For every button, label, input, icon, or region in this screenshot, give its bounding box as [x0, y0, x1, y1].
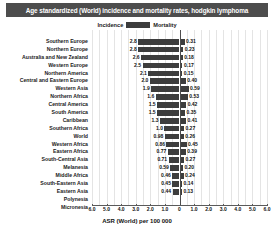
mortality-value-label: 0.20	[184, 164, 194, 172]
axis-tick-mark	[194, 204, 195, 206]
incidence-cell: 2.5	[92, 62, 179, 70]
mortality-value-label: 0.26	[185, 133, 195, 141]
axis-tick-mark	[136, 204, 137, 206]
incidence-cell: 0.71	[92, 156, 179, 164]
chart-row: South-Central Asia0.710.27	[0, 156, 274, 164]
incidence-cell: 2.6	[92, 54, 179, 62]
axis-tick-label: 3.0	[132, 206, 139, 212]
axis-tick-mark	[209, 204, 210, 206]
mortality-cell: 0.23	[180, 46, 267, 54]
mortality-cell: 0.39	[180, 148, 267, 156]
axis-tick-label: 5.0	[103, 206, 110, 212]
incidence-cell: 0.86	[92, 141, 179, 149]
axis-tick-label: 6.0	[89, 206, 96, 212]
mortality-cell: 0.17	[180, 62, 267, 70]
incidence-value-label: 0.59	[159, 164, 169, 172]
incidence-cell: 1.5	[92, 101, 179, 109]
axis-tick-mark	[92, 204, 93, 206]
mortality-cell: 0.53	[180, 93, 267, 101]
row-category-label: Eastern Asia	[0, 188, 88, 196]
incidence-value-label: 1.3	[152, 117, 159, 125]
chart-row: Southern Europe2.80.31	[0, 38, 274, 46]
incidence-value-label: 1.6	[147, 93, 154, 101]
row-category-label: Eastern Africa	[0, 148, 88, 156]
chart-row: Australia and New Zealand2.60.18	[0, 54, 274, 62]
incidence-cell: 0.77	[92, 148, 179, 156]
legend-item-incidence: Incidence	[97, 22, 123, 28]
incidence-bar	[138, 39, 179, 45]
mortality-bar	[180, 126, 184, 132]
chart-row: Central America1.50.42	[0, 101, 274, 109]
mortality-value-label: 0.27	[185, 156, 195, 164]
mortality-bar	[180, 118, 186, 124]
chart-row: Melanesia0.590.20	[0, 164, 274, 172]
mortality-cell: 0.20	[180, 164, 267, 172]
row-category-label: South-Eastern Asia	[0, 180, 88, 188]
chart-row: Caribbean1.30.41	[0, 117, 274, 125]
plot-area: Southern Europe2.80.31Northern Europe2.8…	[0, 30, 274, 205]
chart-row: South-Eastern Asia0.450.14	[0, 180, 274, 188]
mortality-cell: 0.18	[180, 54, 267, 62]
axis-zero-line	[180, 30, 181, 205]
mortality-cell: 0.31	[180, 38, 267, 46]
chart-container: Age standardized (World) incidence and m…	[0, 0, 274, 233]
mortality-bar	[180, 110, 185, 116]
mortality-value-label: 0.35	[187, 109, 197, 117]
mortality-value-label: 0.53	[189, 93, 199, 101]
mortality-cell: 0.13	[180, 188, 267, 196]
incidence-bar	[172, 181, 179, 187]
mortality-value-label: 0.41	[187, 117, 197, 125]
row-category-label: Caribbean	[0, 117, 88, 125]
incidence-cell: 2.1	[92, 70, 179, 78]
row-category-label: Northern Africa	[0, 93, 88, 101]
incidence-bar	[165, 134, 179, 140]
mortality-cell: 0.14	[180, 180, 267, 188]
chart-row: Eastern Asia0.440.13	[0, 188, 274, 196]
incidence-value-label: 1.5	[149, 109, 156, 117]
incidence-cell: 0.98	[92, 133, 179, 141]
mortality-bar	[180, 47, 183, 53]
axis-tick-label: 4.0	[234, 206, 241, 212]
axis-tick-label: 4.0	[118, 206, 125, 212]
incidence-value-label: 2.8	[130, 38, 137, 46]
mortality-value-label: 0.40	[187, 77, 197, 85]
chart-row: Northern Europe2.80.23	[0, 46, 274, 54]
row-category-label: Northern Europe	[0, 46, 88, 54]
mortality-bar	[180, 39, 185, 45]
incidence-cell	[92, 196, 179, 204]
incidence-cell: 1.0	[92, 125, 179, 133]
incidence-bar	[143, 63, 179, 69]
bar-rows: Southern Europe2.80.31Northern Europe2.8…	[0, 38, 274, 212]
mortality-value-label: 0.59	[190, 85, 200, 93]
mortality-bar	[180, 142, 187, 148]
incidence-value-label: 0.45	[161, 180, 171, 188]
mortality-cell: 0.35	[180, 109, 267, 117]
axis-tick-label: 5.0	[249, 206, 256, 212]
incidence-bar	[164, 126, 179, 132]
incidence-value-label: 1.0	[156, 125, 163, 133]
axis-tick-label: 3.0	[220, 206, 227, 212]
incidence-value-label: 0.46	[161, 172, 171, 180]
incidence-bar	[156, 94, 179, 100]
chart-row: Eastern Africa0.770.39	[0, 148, 274, 156]
incidence-cell: 1.3	[92, 117, 179, 125]
axis-tick-mark	[223, 204, 224, 206]
incidence-cell: 0.59	[92, 164, 179, 172]
mortality-cell: 0.41	[180, 117, 267, 125]
mortality-bar	[180, 134, 184, 140]
incidence-value-label: 1.9	[143, 85, 150, 93]
mortality-cell: 0.27	[180, 156, 267, 164]
chart-row: Northern Africa1.60.53	[0, 93, 274, 101]
mortality-cell: 0.40	[180, 77, 267, 85]
chart-legend: Incidence Mortality	[0, 20, 274, 30]
mortality-value-label: 0.24	[185, 172, 195, 180]
incidence-bar	[168, 149, 179, 155]
axis-tick-mark	[165, 204, 166, 206]
incidence-cell: 2.0	[92, 77, 179, 85]
mortality-cell: 0.26	[180, 133, 267, 141]
incidence-bar	[157, 102, 179, 108]
mortality-bar	[180, 157, 184, 163]
incidence-cell: 1.9	[92, 85, 179, 93]
incidence-cell: 0.44	[92, 188, 179, 196]
incidence-bar	[169, 157, 179, 163]
